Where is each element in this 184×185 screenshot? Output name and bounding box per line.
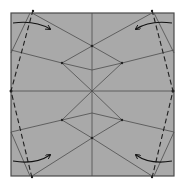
crease-pattern-diagram <box>0 0 184 185</box>
paper-square <box>11 13 174 176</box>
